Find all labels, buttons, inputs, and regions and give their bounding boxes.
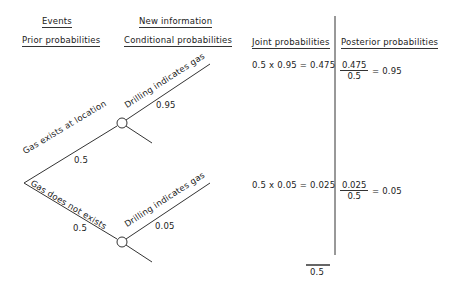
- header-new-info: New information: [139, 16, 212, 28]
- posterior-fraction-1: 0.475 0.5: [340, 60, 368, 81]
- header-joint: Joint probabilities: [252, 37, 330, 49]
- header-events: Events: [42, 16, 72, 28]
- upper-indicator-prob: 0.95: [156, 100, 176, 110]
- joint-total: 0.5: [310, 267, 324, 277]
- joint-row1: 0.5 x 0.95 = 0.475: [252, 60, 335, 70]
- branch-gas-exists: [24, 126, 117, 183]
- joint-row2: 0.5 x 0.05 = 0.025: [252, 180, 335, 190]
- branch-nogas-prob: 0.5: [73, 223, 87, 233]
- header-prior: Prior probabilities: [22, 35, 100, 47]
- posterior-1-denominator: 0.5: [340, 71, 368, 81]
- lower-indicator-prob: 0.05: [155, 221, 175, 231]
- branch-upper-other: [126, 126, 152, 143]
- posterior-2-result: = 0.05: [372, 186, 402, 196]
- branch-lower-other: [126, 245, 152, 262]
- header-conditional: Conditional probabilities: [124, 35, 232, 47]
- posterior-1-result: = 0.95: [372, 66, 402, 76]
- posterior-2-numerator: 0.025: [340, 180, 368, 191]
- chance-node-upper: [117, 118, 127, 128]
- posterior-1-numerator: 0.475: [340, 60, 368, 71]
- posterior-2-denominator: 0.5: [340, 191, 368, 201]
- chance-node-lower: [117, 237, 127, 247]
- branch-gas-prob: 0.5: [74, 155, 88, 165]
- header-posterior: Posterior probabilities: [341, 37, 438, 49]
- posterior-fraction-2: 0.025 0.5: [340, 180, 368, 201]
